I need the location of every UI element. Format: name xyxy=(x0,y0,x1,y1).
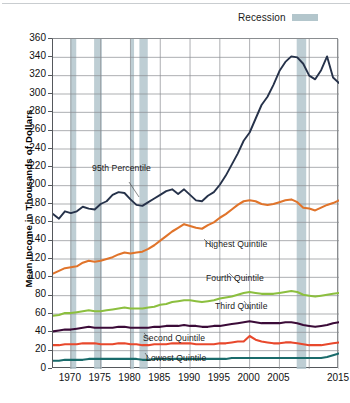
annotation-lowest-quintile: Lowest Quintile xyxy=(146,353,206,363)
x-axis-tick-label: 1970 xyxy=(53,372,87,383)
y-axis-tick-label: 60 xyxy=(18,307,46,318)
left-margin xyxy=(0,0,2,403)
x-axis-tick-label: 1990 xyxy=(172,372,206,383)
annotation-fourth-quintile: Fourth Quintile xyxy=(206,273,264,283)
annotation-95th-percentile: 95th Percentile xyxy=(92,163,151,173)
x-axis-tick-label: 1995 xyxy=(202,372,236,383)
y-axis-tick-label: 40 xyxy=(18,325,46,336)
chart-svg xyxy=(53,39,339,369)
annotation-second-quintile: Second Quintile xyxy=(143,333,205,343)
x-axis-tick-label: 1975 xyxy=(83,372,117,383)
x-axis-tick-label: 2015 xyxy=(321,372,350,383)
y-axis-tick-label: 340 xyxy=(18,50,46,61)
y-axis-tick-label: 360 xyxy=(18,32,46,43)
x-axis-tick-label: 1985 xyxy=(142,372,176,383)
y-axis-tick-label: 80 xyxy=(18,288,46,299)
y-axis-tick-label: 320 xyxy=(18,68,46,79)
annotation-highest-quintile: Highest Quintile xyxy=(205,239,267,249)
top-divider xyxy=(0,3,350,4)
x-axis-tick-label: 2005 xyxy=(261,372,295,383)
plot-area xyxy=(52,38,338,368)
x-axis-tick-label: 2000 xyxy=(232,372,266,383)
y-axis-tick-label: 20 xyxy=(18,343,46,354)
chart-page: Recession Mean Income in Thousands of Do… xyxy=(0,0,350,403)
x-axis-tick-label: 1980 xyxy=(112,372,146,383)
y-axis-tick-label: 300 xyxy=(18,87,46,98)
y-axis-tick-mark xyxy=(48,368,52,369)
y-axis-tick-label: 0 xyxy=(18,362,46,373)
annotation-third-quintile: Third Quintile xyxy=(215,301,268,311)
y-axis-title: Mean Income in Thousands of Dollars xyxy=(23,109,34,289)
legend-label-recession: Recession xyxy=(238,12,286,23)
legend: Recession xyxy=(238,12,318,23)
legend-swatch-recession xyxy=(292,14,318,21)
